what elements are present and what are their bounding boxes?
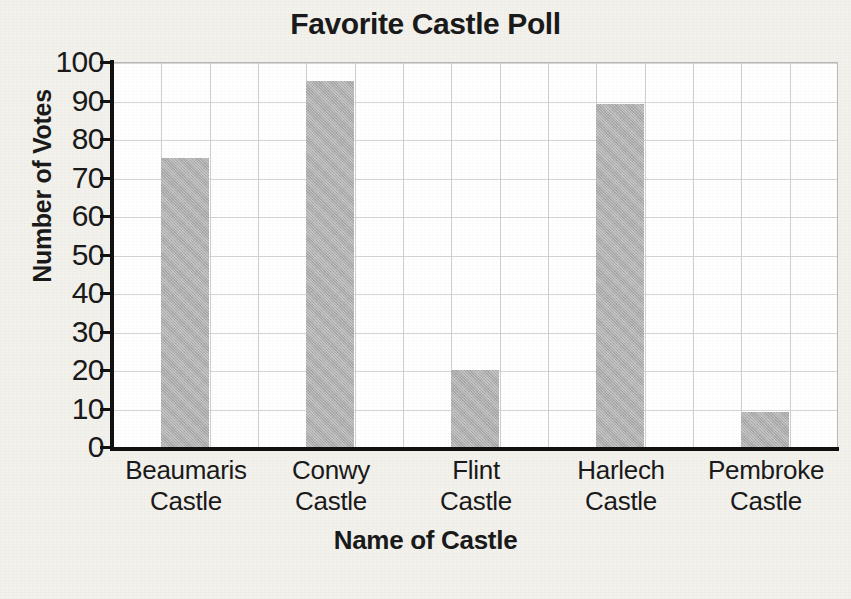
gridline-horizontal bbox=[113, 63, 837, 64]
bar bbox=[741, 412, 789, 447]
y-axis-tick-mark bbox=[100, 369, 114, 372]
gridline-horizontal bbox=[113, 333, 837, 334]
x-axis-tick-label: ConwyCastle bbox=[251, 455, 411, 517]
y-axis-tick-mark bbox=[100, 138, 114, 141]
plot-area bbox=[113, 62, 838, 447]
y-axis-tick-label: 80 bbox=[22, 121, 104, 157]
y-axis-tick-label: 20 bbox=[22, 352, 104, 388]
y-axis-tick-label: 30 bbox=[22, 314, 104, 350]
y-axis-tick-mark bbox=[100, 446, 114, 449]
y-axis-tick-mark bbox=[100, 408, 114, 411]
y-axis-tick-mark bbox=[100, 331, 114, 334]
chart-title: Favorite Castle Poll bbox=[0, 6, 851, 42]
x-axis-tick-label-line: Castle bbox=[686, 486, 846, 517]
gridline-horizontal bbox=[113, 217, 837, 218]
gridline-vertical bbox=[645, 63, 646, 447]
gridline-horizontal bbox=[113, 140, 837, 141]
y-axis-tick-mark bbox=[100, 254, 114, 257]
y-axis-tick-label: 50 bbox=[22, 237, 104, 273]
y-axis-tick-label: 40 bbox=[22, 275, 104, 311]
x-axis-line bbox=[110, 447, 839, 451]
gridline-horizontal bbox=[113, 179, 837, 180]
x-axis-tick-label-line: Castle bbox=[541, 486, 701, 517]
y-axis-tick-label: 70 bbox=[22, 160, 104, 196]
x-axis-tick-labels: BeaumarisCastleConwyCastleFlintCastleHar… bbox=[113, 455, 838, 521]
y-axis-tick-label: 10 bbox=[22, 391, 104, 427]
gridline-vertical bbox=[500, 63, 501, 447]
x-axis-tick-label: HarlechCastle bbox=[541, 455, 701, 517]
x-axis-title: Name of Castle bbox=[0, 525, 851, 556]
gridline-vertical bbox=[210, 63, 211, 447]
bar bbox=[161, 158, 209, 447]
y-axis-tick-mark bbox=[100, 61, 114, 64]
x-axis-tick-label: FlintCastle bbox=[396, 455, 556, 517]
bar bbox=[596, 104, 644, 447]
x-axis-tick-label-line: Harlech bbox=[541, 455, 701, 486]
x-axis-tick-label-line: Castle bbox=[106, 486, 266, 517]
x-axis-tick-label-line: Beaumaris bbox=[106, 455, 266, 486]
x-axis-tick-label: BeaumarisCastle bbox=[106, 455, 266, 517]
bar bbox=[306, 81, 354, 447]
gridline-vertical bbox=[693, 63, 694, 447]
bar-chart-figure: Favorite Castle Poll Number of Votes 100… bbox=[0, 0, 851, 599]
x-axis-tick-label: PembrokeCastle bbox=[686, 455, 846, 517]
gridline-vertical bbox=[790, 63, 791, 447]
x-axis-tick-label-line: Pembroke bbox=[686, 455, 846, 486]
gridline-vertical bbox=[355, 63, 356, 447]
x-axis-tick-label-line: Castle bbox=[251, 486, 411, 517]
gridline-horizontal bbox=[113, 294, 837, 295]
gridline-vertical bbox=[548, 63, 549, 447]
y-axis-tick-label: 100 bbox=[22, 44, 104, 80]
y-axis-tick-label: 60 bbox=[22, 198, 104, 234]
y-axis-tick-label: 0 bbox=[22, 429, 104, 465]
gridline-vertical bbox=[741, 63, 742, 447]
y-axis-tick-mark bbox=[100, 215, 114, 218]
y-axis-tick-label: 90 bbox=[22, 83, 104, 119]
gridline-horizontal bbox=[113, 256, 837, 257]
x-axis-tick-label-line: Conwy bbox=[251, 455, 411, 486]
y-axis-tick-mark bbox=[100, 100, 114, 103]
gridline-vertical bbox=[403, 63, 404, 447]
gridline-vertical bbox=[258, 63, 259, 447]
y-axis-tick-mark bbox=[100, 177, 114, 180]
bar bbox=[451, 370, 499, 447]
y-axis-tick-mark bbox=[100, 292, 114, 295]
x-axis-tick-label-line: Castle bbox=[396, 486, 556, 517]
x-axis-tick-label-line: Flint bbox=[396, 455, 556, 486]
gridline-horizontal bbox=[113, 102, 837, 103]
y-axis-tick-labels: 1009080706050403020100 bbox=[22, 44, 104, 456]
